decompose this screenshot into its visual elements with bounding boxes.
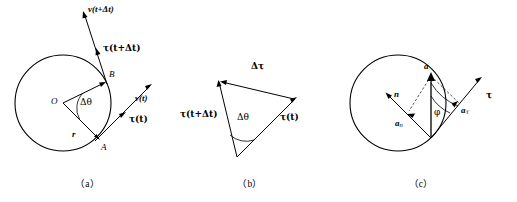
- v-of-t-plus-dt-arrowhead: [83, 11, 88, 19]
- label-point-b: B: [109, 70, 115, 79]
- panel-a: v(t+Δt) τ(t+Δt) B O Δθ r A v(t) τ(t) （a）: [0, 0, 175, 202]
- label-acceleration-a: a: [424, 62, 429, 71]
- label-tau-c: τ: [486, 91, 492, 100]
- label-a-n: an: [395, 119, 403, 129]
- tau-of-t-plus-dt-vector-b: [219, 82, 237, 157]
- delta-theta-arc-b: [230, 135, 254, 141]
- label-phi: φ: [434, 108, 440, 117]
- label-a-tau: aτ: [461, 106, 469, 116]
- dashed-to-a-n: [409, 76, 431, 111]
- panel-c-drawing: [325, 0, 517, 202]
- tau-unit-arrowhead-c: [475, 77, 482, 83]
- label-tau-next-a: τ(t+Δt): [103, 44, 140, 53]
- radius-vector-r: [63, 103, 98, 138]
- panel-b-drawing: [175, 0, 325, 202]
- caption-a: （a）: [0, 176, 175, 190]
- label-delta-theta-a: Δθ: [80, 98, 92, 107]
- delta-tau-arrowhead: [220, 80, 227, 85]
- label-delta-theta-b: Δθ: [237, 113, 249, 122]
- delta-tau-vector: [222, 82, 294, 99]
- label-velocity-now-a: v(t): [135, 94, 148, 103]
- tau-of-t-plus-dt-arrowhead: [96, 48, 101, 56]
- v-of-t-arrowhead: [145, 84, 152, 90]
- radius-to-b-arrowhead: [99, 82, 106, 87]
- label-velocity-next-a: v(t+Δt): [88, 5, 114, 14]
- label-radius-r: r: [72, 130, 76, 139]
- caption-c: （c）: [325, 176, 517, 190]
- normal-unit-vector-n: [387, 94, 431, 138]
- label-delta-tau: Δτ: [251, 62, 264, 71]
- tau-of-t-vector-b: [237, 99, 295, 157]
- label-tau-now-b: τ(t): [280, 113, 299, 122]
- tau-of-t-plus-dt-arrowhead-b: [217, 80, 222, 87]
- label-center-o: O: [51, 97, 58, 106]
- panel-c: a n an aτ τ φ （c）: [325, 0, 517, 202]
- label-tau-next-b: τ(t+Δt): [180, 110, 217, 119]
- caption-b: （b）: [175, 176, 325, 190]
- phi-outer-arc: [431, 83, 458, 106]
- label-point-a: A: [101, 143, 107, 152]
- label-normal-unit-n: n: [394, 90, 399, 99]
- panel-b: Δτ τ(t+Δt) Δθ τ(t) （b）: [175, 0, 325, 202]
- label-tau-now-a: τ(t): [129, 115, 148, 124]
- figure-container: v(t+Δt) τ(t+Δt) B O Δθ r A v(t) τ(t) （a）…: [0, 0, 517, 202]
